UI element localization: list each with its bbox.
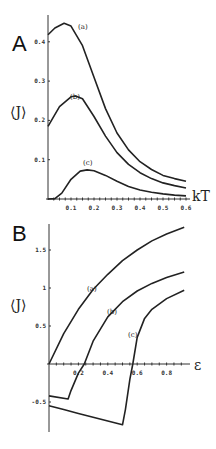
panel-b: B ⟨J⟩ ε 0.20.40.60.8-0.50.511.5 (a) (b) … bbox=[10, 221, 201, 432]
panel-a: A ⟨J⟩ kT 0.10.20.30.40.50.60.10.20.30.4 … bbox=[10, 15, 210, 211]
x-tick-label: 0.8 bbox=[161, 369, 172, 376]
y-tick-label: -0.5 bbox=[32, 398, 47, 405]
panel-a-curve-c-label: (c) bbox=[83, 159, 93, 167]
panel-a-x-label: kT bbox=[192, 188, 210, 204]
curve-b bbox=[48, 96, 186, 188]
y-tick-label: 0.4 bbox=[34, 38, 45, 45]
panel-a-curves bbox=[48, 23, 186, 199]
panel-a-label: A bbox=[12, 31, 27, 56]
curve-a bbox=[49, 227, 184, 364]
panel-a-y-label: ⟨J⟩ bbox=[10, 104, 27, 120]
x-tick-label: 0.4 bbox=[102, 369, 113, 376]
panel-b-ticks: 0.20.40.60.8-0.50.511.5 bbox=[32, 246, 182, 405]
panel-b-x-label: ε bbox=[194, 357, 201, 373]
panel-b-curve-b-label: (b) bbox=[107, 308, 117, 316]
y-tick-label: 1.5 bbox=[35, 246, 46, 253]
panel-b-y-label: ⟨J⟩ bbox=[10, 297, 27, 313]
x-tick-label: 0.1 bbox=[66, 204, 77, 211]
panel-b-curves bbox=[49, 227, 184, 425]
y-tick-label: 0.1 bbox=[34, 156, 45, 163]
curve-b bbox=[49, 272, 184, 399]
panel-a-curve-b-label: (b) bbox=[70, 93, 80, 101]
x-tick-label: 0.3 bbox=[112, 204, 123, 211]
y-tick-label: 0.2 bbox=[34, 116, 45, 123]
x-tick-label: 0.6 bbox=[132, 369, 143, 376]
y-tick-label: 0.3 bbox=[34, 77, 45, 84]
y-tick-label: 0.5 bbox=[35, 322, 46, 329]
x-tick-label: 0.4 bbox=[135, 204, 146, 211]
x-tick-label: 0.2 bbox=[89, 204, 100, 211]
x-tick-label: 0.5 bbox=[158, 204, 169, 211]
panel-a-curve-a-label: (a) bbox=[78, 23, 88, 31]
figure: A ⟨J⟩ kT 0.10.20.30.40.50.60.10.20.30.4 … bbox=[0, 0, 216, 449]
panel-b-curve-a-label: (a) bbox=[87, 285, 97, 293]
curve-a bbox=[48, 23, 186, 181]
panel-b-curve-c-label: (c) bbox=[128, 331, 138, 339]
panel-b-label: B bbox=[12, 221, 27, 246]
y-tick-label: 1 bbox=[42, 284, 46, 291]
curve-c bbox=[48, 170, 186, 199]
x-tick-label: 0.6 bbox=[181, 204, 192, 211]
